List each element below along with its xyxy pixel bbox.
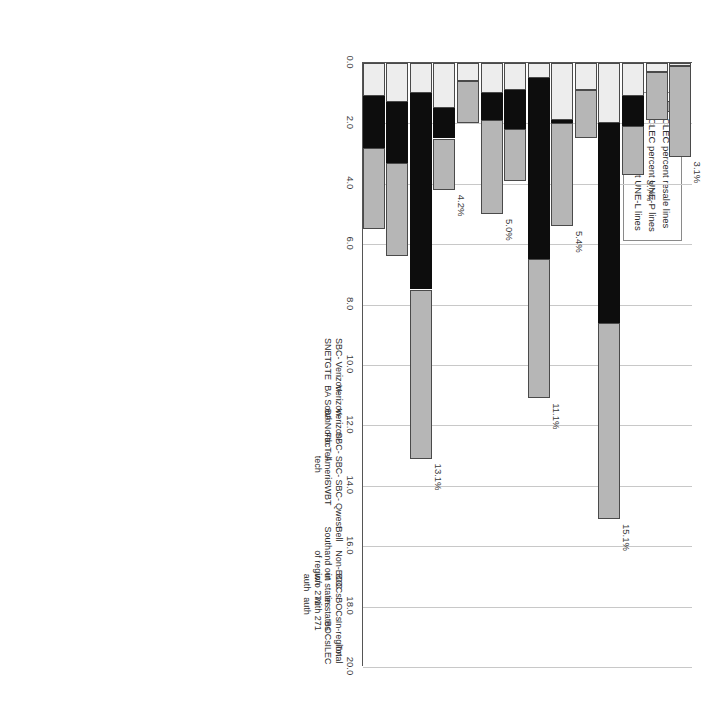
bar-segment-unel — [575, 63, 597, 90]
bar-group: 4.2% — [434, 63, 456, 666]
category-label-line: SNET — [323, 338, 334, 412]
bar-group: 5.5% — [363, 63, 385, 666]
bar-group: 3.1% — [669, 63, 691, 666]
gridline — [363, 667, 692, 668]
x-tick-label: 18.0 — [345, 596, 356, 615]
bar-segment-unep — [528, 78, 550, 259]
bar-group: 2.0% — [457, 63, 479, 666]
bar-segment-unep — [363, 96, 385, 147]
plot-area: 5.5%6.4%13.1%4.2%2.0%5.0%3.9%11.1%5.4%2.… — [362, 62, 692, 666]
bar-segment-unel — [457, 63, 479, 81]
x-tick-label: 12.0 — [345, 415, 356, 434]
x-tick-label: 0.0 — [345, 55, 356, 68]
bar-segment-resale — [481, 120, 503, 214]
bar-segment-unep — [386, 102, 408, 162]
bar-group: 2.5% — [575, 63, 597, 666]
bar-segment-resale — [622, 126, 644, 174]
x-tick-label: 4.0 — [345, 176, 356, 189]
bar-segment-resale — [551, 123, 573, 226]
bar-segment-unel — [599, 63, 621, 123]
bar-segment-resale — [669, 66, 691, 157]
category-label-line: auth — [302, 574, 313, 648]
bar-segment-resale — [434, 139, 456, 190]
bar-segment-resale — [599, 323, 621, 519]
category-label-line: SBC- — [334, 338, 345, 412]
bar-segment-unel — [551, 63, 573, 120]
rotated-figure: CLEC percent resale linesCLEC percent UN… — [296, 0, 705, 708]
bar-group: 6.4% — [386, 63, 408, 666]
bar-segment-unel — [504, 63, 526, 90]
bar-segment-resale — [410, 290, 432, 459]
category-label-line: tech — [313, 456, 324, 530]
bar-segment-resale — [363, 148, 385, 230]
bar-value-label: 3.1% — [692, 162, 703, 184]
x-tick-label: 8.0 — [345, 297, 356, 310]
bar-group: 3.7% — [622, 63, 644, 666]
bar-segment-unep — [481, 93, 503, 120]
bar-segment-unel — [386, 63, 408, 102]
bar-group: 11.1% — [528, 63, 550, 666]
bar-segment-unel — [528, 63, 550, 78]
bar-group: 3.9% — [504, 63, 526, 666]
bar-segment-unel — [622, 63, 644, 96]
category-label-line: of region — [313, 550, 324, 624]
x-tick-label: 2.0 — [345, 116, 356, 129]
bar-group: 5.0% — [481, 63, 503, 666]
bar-group: 5.4% — [551, 63, 573, 666]
bar-segment-unep — [622, 96, 644, 126]
x-tick-label: 10.0 — [345, 355, 356, 374]
bar-group: 13.1% — [410, 63, 432, 666]
x-tick-label: 14.0 — [345, 476, 356, 495]
bar-segment-unel — [481, 63, 503, 93]
bar-segment-resale — [575, 90, 597, 138]
x-tick-label: 20.0 — [345, 657, 356, 676]
bar-segment-unep — [599, 123, 621, 322]
bar-segment-resale — [528, 259, 550, 398]
bar-segment-resale — [646, 72, 668, 120]
x-tick-label: 6.0 — [345, 237, 356, 250]
category-label: SBC-SNET — [323, 338, 344, 412]
bar-segment-resale — [386, 163, 408, 257]
bar-segment-resale — [457, 81, 479, 123]
bar-segment-unel — [434, 63, 456, 108]
bar-group: 1.9% — [646, 63, 668, 666]
bar-segment-unep — [504, 90, 526, 129]
bar-group: 15.1% — [599, 63, 621, 666]
bar-segment-unel — [646, 63, 668, 72]
bar-segment-unel — [363, 63, 385, 96]
bar-segment-unel — [410, 63, 432, 93]
bar-segment-unep — [434, 108, 456, 138]
x-tick-label: 16.0 — [345, 536, 356, 555]
bar-segment-unep — [410, 93, 432, 289]
bar-segment-resale — [504, 129, 526, 180]
